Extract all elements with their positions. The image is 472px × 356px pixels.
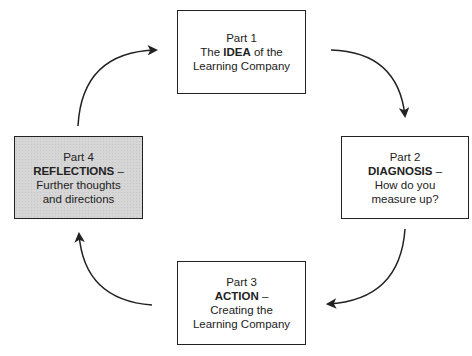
part-3-title: ACTION – xyxy=(215,289,269,303)
part-2-box: Part 2 DIAGNOSIS – How do you measure up… xyxy=(341,136,469,219)
part-1-description: Learning Company xyxy=(193,59,290,73)
part-4-description-line-2: and directions xyxy=(43,192,115,206)
part-3-description-line-2: Learning Company xyxy=(193,317,290,331)
arrow-part1-to-part2 xyxy=(331,50,405,116)
part-2-title: DIAGNOSIS – xyxy=(368,164,442,178)
part-3-box: Part 3 ACTION – Creating the Learning Co… xyxy=(177,261,306,345)
arrow-part3-to-part4 xyxy=(79,234,152,305)
part-2-keyword: DIAGNOSIS xyxy=(368,165,433,177)
part-2-label: Part 2 xyxy=(390,150,421,164)
part-1-box: Part 1 The IDEA of the Learning Company xyxy=(177,10,306,94)
arrow-part2-to-part3 xyxy=(328,229,405,304)
part-4-title: REFLECTIONS – xyxy=(33,164,124,178)
arrow-part4-to-part1 xyxy=(78,50,156,126)
part-4-label: Part 4 xyxy=(63,150,94,164)
part-3-label: Part 3 xyxy=(226,275,257,289)
part-2-description-line-1: How do you xyxy=(375,178,436,192)
part-4-keyword: REFLECTIONS xyxy=(33,165,114,177)
part-4-description-line-1: Further thoughts xyxy=(36,178,120,192)
part-2-description-line-2: measure up? xyxy=(371,192,438,206)
part-4-box: Part 4 REFLECTIONS – Further thoughts an… xyxy=(14,136,143,219)
part-1-title: The IDEA of the xyxy=(200,45,282,59)
part-3-keyword: ACTION xyxy=(215,290,259,302)
part-1-keyword: IDEA xyxy=(223,46,250,58)
part-1-label: Part 1 xyxy=(226,31,257,45)
part-3-description-line-1: Creating the xyxy=(210,303,273,317)
